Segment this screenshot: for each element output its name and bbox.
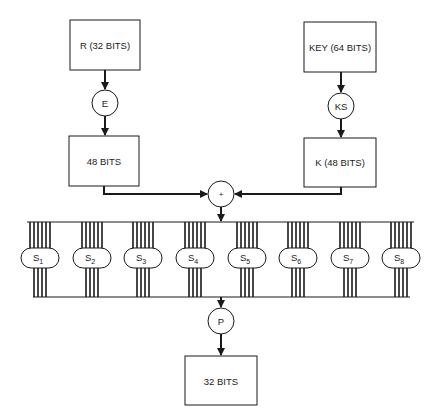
permutation-label: P: [218, 316, 224, 327]
key-schedule-label: KS: [335, 101, 348, 112]
xor-label: +: [219, 190, 224, 199]
subkey-box: K (48 BITS): [304, 138, 376, 187]
sbox-3: S3: [124, 222, 162, 297]
permutation-node: P: [208, 308, 234, 334]
sbox-2: S2: [73, 222, 111, 297]
des-f-function-diagram: R (32 BITS) E 48 BITS KEY (64 BITS) KS K…: [0, 0, 443, 418]
sbox-1: S1: [21, 222, 59, 297]
expanded-label: 48 BITS: [87, 156, 121, 167]
sbox-8: S8: [382, 222, 420, 297]
sbox-7: S7: [331, 222, 369, 297]
output-box: 32 BITS: [185, 356, 257, 405]
r-input-label: R (32 BITS): [80, 40, 130, 51]
xor-node: +: [208, 181, 234, 207]
expanded-box: 48 BITS: [69, 136, 139, 186]
key-schedule-node: KS: [328, 93, 354, 119]
subkey-label: K (48 BITS): [315, 157, 365, 168]
output-label: 32 BITS: [204, 376, 238, 387]
arrow-48bits-to-xor: [104, 186, 207, 194]
r-input-box: R (32 BITS): [70, 20, 140, 70]
key-input-label: KEY (64 BITS): [309, 42, 371, 53]
sbox-row: S1S2S3S4S5S6S7S8: [21, 222, 420, 297]
arrow-k-to-xor: [235, 187, 341, 194]
expansion-node: E: [92, 90, 118, 116]
key-input-box: KEY (64 BITS): [304, 22, 376, 72]
sbox-6: S6: [279, 222, 317, 297]
sbox-4: S4: [176, 222, 214, 297]
sbox-5: S5: [228, 222, 266, 297]
expansion-label: E: [102, 98, 108, 109]
